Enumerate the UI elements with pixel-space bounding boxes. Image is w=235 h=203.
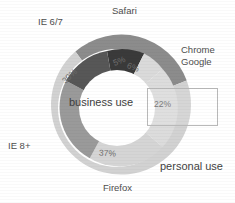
label-ie67: IE 6/7 bbox=[38, 17, 63, 27]
percent-label-firefox: 37% bbox=[99, 147, 117, 158]
label-google: Google bbox=[181, 57, 212, 67]
donut-chart: 5% 6% 22% 30% 37% Safari IE 6/7 Chrome G… bbox=[0, 0, 235, 203]
label-business-use: business use bbox=[69, 97, 133, 109]
label-chrome: Chrome bbox=[181, 45, 215, 55]
selection-rectangle[interactable] bbox=[147, 88, 218, 126]
label-safari: Safari bbox=[112, 6, 137, 16]
label-firefox: Firefox bbox=[103, 183, 132, 193]
label-ie8-plus: IE 8+ bbox=[8, 141, 30, 151]
label-personal-use: personal use bbox=[160, 161, 223, 173]
